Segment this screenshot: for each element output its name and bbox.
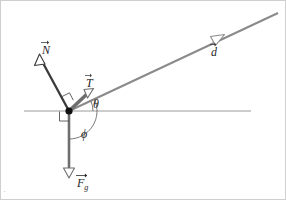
label-angle-theta: θ <box>93 98 99 110</box>
label-normal-force: N <box>42 40 50 56</box>
label-displacement: d <box>211 42 217 58</box>
label-displacement-symbol: d <box>211 45 217 59</box>
label-gravity: Fg <box>77 173 88 193</box>
label-angle-phi: ϕ <box>81 128 87 140</box>
label-gravity-subscript: g <box>84 183 88 192</box>
label-normal-force-symbol: N <box>42 43 50 57</box>
gravity-arrowhead <box>64 168 75 178</box>
displacement-vector-line <box>69 13 278 111</box>
free-body-diagram-svg <box>1 1 286 200</box>
label-tension: T <box>86 73 93 89</box>
corner-scan-artifact: · <box>3 187 6 196</box>
diagram-canvas: N T d Fg θ ϕ · <box>0 0 286 200</box>
normal-force-line <box>43 63 69 111</box>
label-tension-symbol: T <box>86 76 93 90</box>
origin-particle-dot <box>65 107 72 114</box>
